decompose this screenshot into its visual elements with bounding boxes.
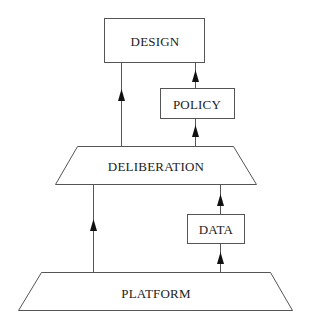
data-label: DATA — [199, 223, 233, 236]
arrow-up-icon — [217, 252, 224, 264]
arrow-up-icon — [90, 219, 97, 231]
arrow-up-icon — [118, 89, 125, 101]
design-label: DESIGN — [131, 35, 180, 48]
policy-label: POLICY — [173, 98, 221, 111]
deliberation-label: DELIBERATION — [108, 160, 204, 173]
arrow-up-icon — [192, 125, 199, 137]
arrow-up-icon — [217, 194, 224, 206]
arrow-up-icon — [192, 70, 199, 82]
platform-label: PLATFORM — [121, 287, 191, 300]
